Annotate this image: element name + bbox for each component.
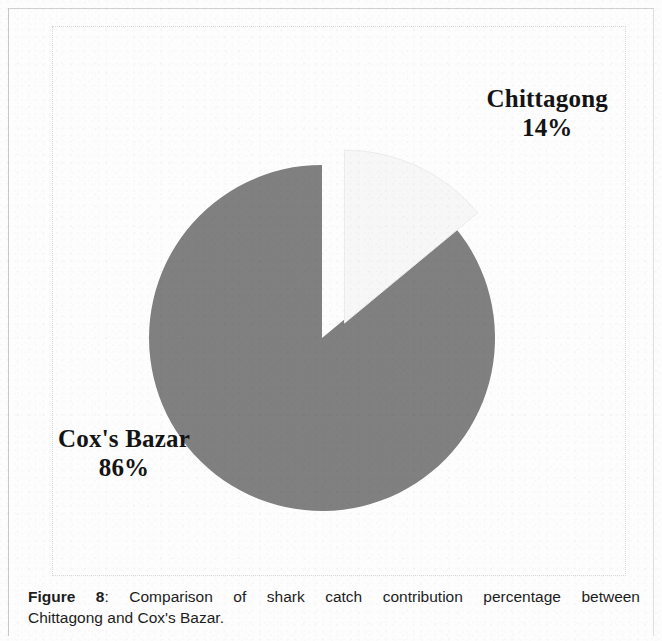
figure-number: Figure 8 [28,588,104,605]
figure-caption-separator: : [104,588,108,605]
figure-caption-line-1: Figure 8: Comparison of shark catch cont… [28,586,640,607]
figure-caption: Figure 8: Comparison of shark catch cont… [28,586,640,628]
pie-label-coxs-bazar-name: Cox's Bazar [58,425,190,452]
pie-label-chittagong-name: Chittagong [487,85,608,112]
figure-caption-text-2: Chittagong and Cox's Bazar. [28,607,640,628]
figure-caption-text-1: Comparison of shark catch contribution p… [129,588,640,605]
pie-chart: Chittagong 14% Cox's Bazar 86% [52,26,626,576]
figure-page: Chittagong 14% Cox's Bazar 86% Figure 8:… [0,0,662,641]
pie-label-chittagong: Chittagong 14% [487,84,608,142]
pie-label-coxs-bazar-percent: 86% [58,453,190,482]
pie-label-coxs-bazar: Cox's Bazar 86% [58,424,190,482]
pie-label-chittagong-percent: 14% [487,113,608,142]
